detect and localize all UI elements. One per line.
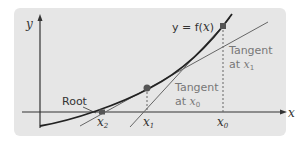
point-on-curve-x1: [144, 85, 151, 92]
point-on-curve-x0: [220, 23, 226, 29]
tangent-x0-label-line2: at x0: [175, 95, 200, 109]
root-label: Root: [62, 95, 88, 108]
x0-label: x0: [217, 115, 229, 130]
curve-label: y = f(x): [172, 20, 214, 34]
x-axis-arrow-icon: [280, 110, 287, 115]
y-axis-label: y: [25, 17, 33, 31]
tangent-at-x0: [130, 18, 230, 127]
x2-label: x2: [97, 115, 109, 130]
y-axis-arrow-icon: [38, 14, 43, 21]
tangent-x1-label-line1: Tangent: [228, 44, 273, 57]
x-axis-label: x: [288, 106, 295, 120]
x1-label: x1: [143, 115, 154, 130]
point-x2-on-axis: [99, 110, 105, 115]
newton-raphson-diagram: y x y = f(x) Root x2 x1 x0 Tangent at x1…: [0, 0, 299, 145]
tangent-x1-label-line2: at x1: [229, 58, 254, 72]
tangent-x0-label-line1: Tangent: [174, 81, 219, 94]
